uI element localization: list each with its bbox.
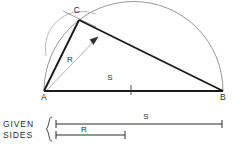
given-sides-brace bbox=[47, 117, 53, 141]
construction-arc-radius-r bbox=[45, 11, 96, 56]
geometry-figure: A B C R S GIVEN SIDES S R bbox=[0, 0, 241, 150]
vertex-label-c: C bbox=[74, 5, 80, 15]
side-label-given: S bbox=[143, 112, 149, 121]
given-sides-line2: SIDES bbox=[3, 130, 33, 140]
given-sides-line1: GIVEN bbox=[3, 119, 34, 129]
radius-label-triangle: R bbox=[67, 55, 73, 64]
vertex-label-b: B bbox=[220, 92, 226, 102]
triangle-side-cb bbox=[79, 20, 223, 91]
figure-canvas: A B C R S GIVEN SIDES S R bbox=[0, 0, 241, 150]
vertex-label-a: A bbox=[41, 92, 47, 102]
triangle-side-ac bbox=[44, 20, 79, 91]
side-label-triangle: S bbox=[107, 73, 113, 82]
radius-arrowhead bbox=[90, 37, 98, 45]
radius-label-given: R bbox=[81, 125, 87, 134]
